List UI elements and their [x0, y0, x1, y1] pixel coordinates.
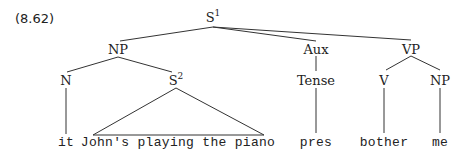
node-np: NP [108, 43, 128, 56]
node-s2-label: S [169, 73, 178, 88]
branch-s1-np [120, 27, 213, 41]
node-np2: NP [430, 74, 450, 87]
leaf-it: it [58, 136, 74, 149]
leaf-s2-phrase: John's playing the piano [81, 136, 275, 149]
branch-np-n [67, 57, 118, 72]
branch-np-s2 [118, 57, 172, 72]
leaf-bother: bother [360, 136, 409, 149]
node-s1-superscript: 1 [215, 8, 221, 18]
branch-s1-aux [213, 27, 316, 41]
branch-s1-vp [213, 27, 411, 40]
s2-triangle [93, 88, 264, 135]
node-s2-superscript: 2 [178, 71, 184, 81]
example-number: (8.62) [15, 12, 54, 25]
node-s1: S1 [206, 11, 221, 24]
node-tense: Tense [297, 74, 335, 87]
node-n: N [60, 74, 71, 87]
node-v: V [379, 74, 388, 87]
branch-vp-v [386, 56, 411, 70]
leaf-me: me [432, 136, 448, 149]
node-aux: Aux [303, 43, 328, 56]
node-s1-label: S [206, 10, 215, 25]
node-vp: VP [402, 43, 420, 56]
syntax-tree-diagram: (8.62) S1 NP Aux VP N S2 Tense V NP it J… [0, 0, 467, 154]
node-s2: S2 [169, 74, 184, 87]
leaf-pres: pres [300, 136, 332, 149]
branch-vp-np [411, 56, 440, 70]
